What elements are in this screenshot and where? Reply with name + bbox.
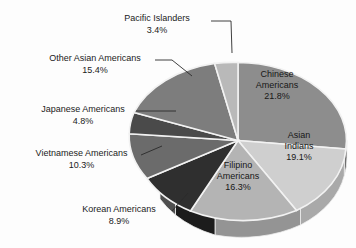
callout-korean-americans: Korean Americans 8.9% — [58, 204, 180, 227]
slice-percent-filipino: 16.3% — [200, 182, 276, 193]
slice-label-asian-indians-line1: Asian — [266, 130, 332, 141]
callout-label-other-asian-americans: Other Asian Americans — [28, 53, 162, 65]
slice-label-chinese-americans: Chinese Americans 21.8% — [240, 69, 314, 102]
callout-label-vietnamese-americans: Vietnamese Americans — [14, 148, 149, 160]
callout-percent-korean-americans: 8.9% — [58, 216, 180, 228]
callout-vietnamese-americans: Vietnamese Americans 10.3% — [14, 148, 149, 171]
callout-label-japanese-americans: Japanese Americans — [22, 104, 144, 116]
callout-pacific-islanders: Pacific Islanders 3.4% — [103, 13, 211, 36]
callout-label-korean-americans: Korean Americans — [58, 204, 180, 216]
callout-percent-other-asian-americans: 15.4% — [28, 65, 162, 77]
slice-percent-chinese: 21.8% — [240, 91, 314, 102]
callout-other-asian-americans: Other Asian Americans 15.4% — [28, 53, 162, 76]
callout-label-pacific-islanders: Pacific Islanders — [103, 13, 211, 25]
callout-japanese-americans: Japanese Americans 4.8% — [22, 104, 144, 127]
slice-label-chinese-line1: Chinese — [240, 69, 314, 80]
slice-label-filipino-line2: Americans — [200, 171, 276, 182]
slice-label-filipino-americans: Filipino Americans 16.3% — [200, 160, 276, 193]
slice-label-filipino-line1: Filipino — [200, 160, 276, 171]
callout-percent-japanese-americans: 4.8% — [22, 116, 144, 128]
slice-label-chinese-line2: Americans — [240, 80, 314, 91]
pie-chart-figure: Pacific Islanders 3.4% Other Asian Ameri… — [0, 0, 356, 248]
callout-percent-pacific-islanders: 3.4% — [103, 25, 211, 37]
leader-line-pacific-islanders — [211, 21, 232, 53]
callout-percent-vietnamese-americans: 10.3% — [14, 160, 149, 172]
slice-label-asian-indians-line2: Indians — [266, 141, 332, 152]
slice-label-asian-indians: Asian Indians 19.1% — [266, 130, 332, 163]
